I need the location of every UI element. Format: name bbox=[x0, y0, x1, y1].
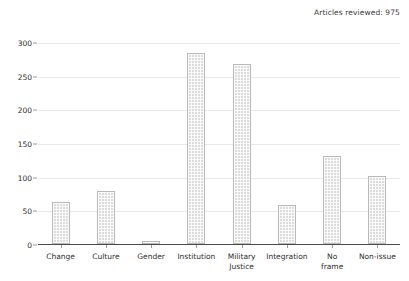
x-axis-tick-mark bbox=[377, 245, 378, 248]
bar bbox=[187, 53, 205, 244]
y-axis-tick-mark bbox=[33, 245, 37, 246]
x-axis-tick-label: Non-issue bbox=[359, 252, 396, 262]
gridline bbox=[38, 211, 400, 212]
x-axis-tick-label: Noframe bbox=[321, 252, 343, 272]
x-axis-tick-mark bbox=[196, 245, 197, 248]
x-axis-tick-label-line: Institution bbox=[177, 252, 215, 262]
x-axis-tick-label: Institution bbox=[177, 252, 215, 262]
x-axis-tick-label-line: Change bbox=[46, 252, 75, 262]
y-axis-tick-label: 150 bbox=[18, 140, 32, 149]
x-axis-tick-mark bbox=[287, 245, 288, 248]
bar bbox=[323, 156, 341, 244]
x-axis-tick-label: Gender bbox=[137, 252, 165, 262]
plot-area: 050100150200250300 ChangeCultureGenderIn… bbox=[38, 43, 400, 245]
gridline bbox=[38, 43, 400, 44]
y-axis-tick-mark bbox=[33, 144, 37, 145]
x-axis-tick-label-line: No bbox=[321, 252, 343, 262]
x-axis-tick-label: Integration bbox=[266, 252, 307, 262]
y-axis-tick-label: 300 bbox=[18, 39, 32, 48]
x-axis-tick-label: Change bbox=[46, 252, 75, 262]
x-axis-tick-label: MilitaryJustice bbox=[228, 252, 256, 272]
x-axis-tick-mark bbox=[151, 245, 152, 248]
x-axis-tick-mark bbox=[332, 245, 333, 248]
articles-reviewed-annotation: Articles reviewed: 975 bbox=[314, 8, 400, 17]
y-axis-tick-mark bbox=[33, 211, 37, 212]
x-axis-tick-label: Culture bbox=[92, 252, 119, 262]
y-axis-tick-label: 250 bbox=[18, 72, 32, 81]
x-axis-tick-label-line: Culture bbox=[92, 252, 119, 262]
x-axis-tick-mark bbox=[106, 245, 107, 248]
gridline bbox=[38, 77, 400, 78]
bar bbox=[52, 202, 70, 244]
y-axis-tick-mark bbox=[33, 43, 37, 44]
x-axis-tick-label-line: Integration bbox=[266, 252, 307, 262]
x-axis-tick-label-line: Gender bbox=[137, 252, 165, 262]
gridline bbox=[38, 144, 400, 145]
y-axis-tick-label: 50 bbox=[22, 207, 32, 216]
x-axis-tick-label-line: frame bbox=[321, 262, 343, 272]
bar bbox=[278, 205, 296, 244]
x-axis-tick-label-line: Justice bbox=[228, 262, 256, 272]
x-axis-line bbox=[38, 244, 400, 245]
y-axis-tick-mark bbox=[33, 76, 37, 77]
x-axis-tick-label-line: Military bbox=[228, 252, 256, 262]
x-axis-tick-label-line: Non-issue bbox=[359, 252, 396, 262]
y-axis-tick-label: 100 bbox=[18, 173, 32, 182]
gridline bbox=[38, 110, 400, 111]
gridline bbox=[38, 178, 400, 179]
y-axis-tick-mark bbox=[33, 177, 37, 178]
bar bbox=[233, 64, 251, 244]
x-axis-tick-mark bbox=[242, 245, 243, 248]
bar bbox=[97, 191, 115, 244]
bar bbox=[368, 176, 386, 244]
bar-chart-figure: Articles reviewed: 975 05010015020025030… bbox=[0, 0, 409, 281]
y-axis-tick-label: 200 bbox=[18, 106, 32, 115]
y-axis-tick-mark bbox=[33, 110, 37, 111]
x-axis-tick-mark bbox=[61, 245, 62, 248]
y-axis-tick-label: 0 bbox=[27, 241, 32, 250]
